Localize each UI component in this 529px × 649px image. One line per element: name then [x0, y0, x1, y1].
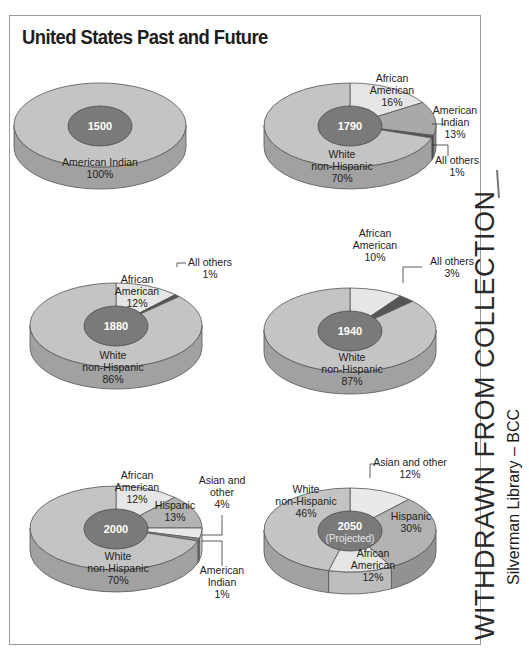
- slice-label: AfricanAmerican10%: [353, 227, 398, 263]
- year-label: 1790: [338, 120, 362, 132]
- year-label: 2000: [104, 523, 128, 535]
- year-label: 1500: [88, 120, 112, 132]
- leader-line: [202, 541, 222, 566]
- pie-1500: 1500American Indian100%: [14, 83, 186, 189]
- library-stamp: Silverman Library – BCC: [505, 409, 523, 585]
- slice-label: AmericanIndian1%: [200, 564, 245, 600]
- slice-label: All others1%: [188, 256, 232, 280]
- leader-line: [202, 515, 222, 535]
- pie-charts-canvas: 1500American Indian100%1790AfricanAmeric…: [0, 0, 529, 649]
- slice-label: Asian andother4%: [199, 474, 246, 510]
- year-label: 1940: [338, 325, 362, 337]
- pie-2000: 2000AfricanAmerican12%Hispanic13%Asian a…: [30, 469, 246, 600]
- projected-label: (Projected): [326, 533, 375, 544]
- pie-1790: 1790AfricanAmerican16%AmericanIndian13%A…: [264, 72, 479, 189]
- slice-label: Asian and other12%: [373, 456, 447, 480]
- withdrawn-stamp: WITHDRAWN FROM COLLECTION: [470, 191, 501, 640]
- year-label: 2050: [338, 520, 362, 532]
- pie-1880: 1880AfricanAmerican12%All others1%Whiten…: [30, 256, 232, 389]
- leader-line: [403, 267, 422, 283]
- pie-1940: 1940AfricanAmerican10%All others3%Whiten…: [264, 227, 474, 394]
- slice-label: AmericanIndian13%: [433, 104, 478, 140]
- slice-label: All others3%: [430, 255, 474, 279]
- slice-label: All others1%: [435, 154, 479, 178]
- pie-2050: 2050(Projected)Asian and other12%Hispani…: [264, 456, 447, 594]
- year-label: 1880: [104, 320, 128, 332]
- leader-line: [177, 263, 186, 267]
